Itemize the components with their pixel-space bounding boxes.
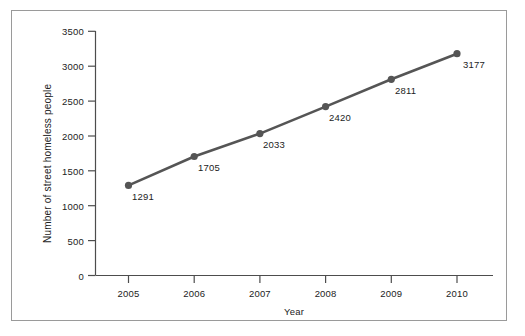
data-point-marker	[256, 130, 263, 137]
data-line-series	[129, 54, 458, 186]
y-tick-label-2500: 2500	[58, 96, 84, 107]
data-point-label-2007: 2033	[263, 139, 285, 150]
x-tick-label-2006: 2006	[183, 288, 205, 299]
data-point-label-2006: 1705	[198, 162, 220, 173]
x-tick-label-2005: 2005	[118, 288, 140, 299]
y-tick-label-2000: 2000	[58, 131, 84, 142]
data-point-label-2005: 1291	[132, 191, 154, 202]
data-point-marker	[453, 50, 460, 57]
x-tick-label-2009: 2009	[380, 288, 402, 299]
y-tick-label-3500: 3500	[58, 26, 84, 37]
chart-figure: 0 500 1000 1500 2000 2500 3000 3500 2005…	[0, 0, 525, 336]
data-point-label-2008: 2420	[329, 112, 351, 123]
x-tick-label-2008: 2008	[315, 288, 337, 299]
y-tick-label-3000: 3000	[58, 61, 84, 72]
data-point-marker	[322, 103, 329, 110]
data-point-marker	[388, 76, 395, 83]
x-axis-ticks	[129, 276, 458, 284]
x-tick-label-2010: 2010	[446, 288, 468, 299]
y-tick-label-500: 500	[58, 235, 84, 246]
data-point-label-2010: 3177	[463, 59, 485, 70]
x-axis-title: Year	[284, 306, 304, 317]
y-axis-title: Number of street homeless people	[42, 84, 53, 243]
data-point-label-2009: 2811	[395, 85, 416, 96]
data-point-marker	[191, 153, 198, 160]
data-point-marker	[125, 182, 132, 189]
y-tick-label-0: 0	[58, 270, 84, 281]
y-tick-label-1000: 1000	[58, 200, 84, 211]
x-tick-label-2007: 2007	[249, 288, 271, 299]
y-tick-label-1500: 1500	[58, 165, 84, 176]
y-axis-ticks	[88, 31, 96, 275]
